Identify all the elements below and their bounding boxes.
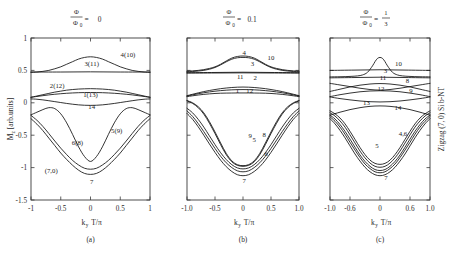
curve-label-3: 3: [384, 67, 388, 74]
curve-14: [330, 106, 430, 115]
phi-numerator: Φ: [364, 8, 369, 15]
curve-label-8: 8: [406, 77, 410, 84]
curve-label-68: 6(8): [72, 139, 83, 147]
x-tick-label: 1.0: [295, 205, 304, 213]
curve-10: [330, 70, 430, 71]
x-axis-label-sub: y: [375, 222, 378, 228]
equals-sign: =: [374, 15, 378, 24]
phi-denominator: Φ: [226, 19, 231, 26]
curve-label-12: 12: [378, 85, 385, 92]
x-tick-label: -1: [28, 205, 34, 213]
curve-label-10: 10: [395, 60, 402, 67]
curve-label-5: 5: [375, 142, 379, 149]
panel-title-value: 0.1: [247, 15, 257, 24]
curve-label-113: 1(13): [83, 91, 98, 99]
curve-label-10: 10: [268, 54, 275, 61]
side-label: Zigzag (7, 0) Si b-NT: [437, 86, 446, 151]
curve-label-11: 11: [380, 74, 387, 81]
y-axis-title-text: Mz [arb.units]: [6, 98, 16, 140]
panel-caption-a: (a): [86, 235, 95, 244]
curve-label-2: 2: [254, 74, 258, 81]
figure-container: ΦΦ0=0-1-0.500.5110.50-0.5-1-1.54(10)3(11…: [0, 0, 453, 253]
curve-label-7: 7: [90, 178, 94, 185]
y-tick-label: -1.5: [16, 197, 28, 205]
equals-sign: =: [84, 15, 88, 24]
x-tick-label: -0.5: [55, 205, 67, 213]
y-tick-label: 0: [23, 99, 27, 107]
panel-title-value: 0: [98, 15, 102, 24]
phi-denominator: Φ: [363, 19, 368, 26]
curve-4: [187, 56, 299, 71]
x-axis-title-b: ky T/π: [234, 218, 254, 228]
curve-label-14: 14: [395, 104, 402, 111]
phi-numerator: Φ: [227, 8, 232, 15]
curve-label-70: (7,0): [45, 167, 58, 175]
x-axis-title-c: ky T/π: [371, 218, 391, 228]
x-tick-label: -1.0: [181, 205, 193, 213]
phi-denominator: Φ: [73, 19, 78, 26]
curve-label-7: 7: [384, 174, 388, 181]
curve-5: [187, 101, 299, 166]
curve-6: [187, 111, 299, 172]
panel-a: ΦΦ0=0-1-0.500.5110.50-0.5-1-1.54(10)3(11…: [16, 8, 153, 244]
x-tick-label: -0.6: [344, 205, 356, 213]
curve-label-46: 4,6: [399, 130, 408, 137]
curve-13: [330, 97, 430, 102]
curve-label-311: 3(11): [84, 60, 98, 68]
panel-b: ΦΦ0=0.1-1.0-0.500.51.0410311211295867ky …: [181, 8, 304, 244]
phi-denominator-sub: 0: [369, 22, 372, 28]
curve-label-4: 4: [242, 49, 246, 56]
curve-label-59: 5(9): [111, 127, 122, 135]
x-axis-label-rest: T/π: [381, 218, 392, 227]
curve-label-410: 4(10): [121, 51, 136, 59]
y-axis-label-unit: [arb.units]: [6, 98, 15, 131]
y-tick-label: 0.5: [18, 67, 27, 75]
x-tick-label: 0: [378, 205, 382, 213]
curve-label-5: 5: [252, 136, 256, 143]
curve-label-8: 8: [263, 131, 267, 138]
x-tick-label: 0: [89, 205, 93, 213]
curve-label-11: 11: [237, 73, 244, 80]
curve-label-14: 14: [88, 103, 95, 110]
curve-5(9): [31, 108, 150, 162]
panel-caption-c: (c): [376, 235, 385, 244]
curve-9: [187, 101, 299, 166]
x-tick-label: -0.5: [209, 205, 221, 213]
curve-12: [187, 93, 299, 97]
curve-label-1: 1: [236, 87, 239, 94]
curve-label-9: 9: [409, 87, 413, 94]
phi-denominator-sub: 0: [232, 22, 235, 28]
curve-5: [330, 113, 430, 167]
x-axis-label-rest: T/π: [244, 218, 255, 227]
panel-title-a: ΦΦ0=0: [71, 8, 102, 28]
x-tick-label: -1.0: [324, 205, 336, 213]
curve-8: [187, 108, 299, 169]
x-tick-label: 0.5: [267, 205, 276, 213]
curve-label-212: 2(12): [50, 82, 65, 90]
curve-label-13: 13: [363, 99, 370, 106]
y-tick-label: 1: [23, 35, 27, 43]
curve-label-7: 7: [242, 177, 246, 184]
x-tick-label: 1: [148, 205, 152, 213]
panel-c: ΦΦ0=13-1.0-0.600.61.0103118129131454,67k…: [324, 8, 435, 244]
panel-title-b: ΦΦ0=0.1: [223, 8, 257, 28]
x-axis-label-sub: y: [238, 222, 241, 228]
x-tick-label: 0: [241, 205, 245, 213]
curve-label-12: 12: [246, 87, 253, 94]
x-axis-title-a: ky T/π: [82, 218, 102, 228]
equals-sign: =: [237, 15, 241, 24]
figure-svg: ΦΦ0=0-1-0.500.5110.50-0.5-1-1.54(10)3(11…: [0, 0, 453, 253]
y-tick-label: -1: [21, 164, 27, 172]
y-tick-label: -0.5: [16, 132, 28, 140]
curve-label-3: 3: [251, 60, 255, 67]
curve-label-6: 6: [264, 150, 268, 157]
x-axis-label-sub: y: [86, 222, 89, 228]
x-tick-label: 0.6: [406, 205, 415, 213]
phi-numerator: Φ: [74, 8, 79, 15]
panel-caption-b: (b): [239, 235, 248, 244]
panel-title-value-den: 3: [384, 20, 388, 27]
y-axis-title: Mz [arb.units]: [6, 98, 16, 140]
phi-denominator-sub: 0: [80, 22, 83, 28]
panel-title-value-num: 1: [384, 9, 387, 16]
panel-title-c: ΦΦ0=13: [360, 8, 390, 28]
